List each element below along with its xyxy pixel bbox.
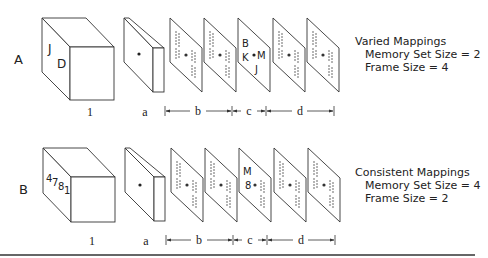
frame-c-target-b: M 8 [239,148,271,222]
stage-label-b: b [195,104,201,118]
svg-text:B: B [242,38,249,49]
memory-item: J [47,42,52,56]
stage-label-d: d [297,104,303,118]
frame-b1-b [171,148,203,222]
caption-consistent: Consistent Mappings Memory Set Size = 4 … [355,166,481,205]
memory-set-box-a: J D [42,18,114,100]
memory-set-box-b: 4 7 8 1 [43,148,115,222]
caption-title: Consistent Mappings [355,166,481,179]
row-label-b: B [19,182,28,197]
caption-memory-set-size: Memory Set Size = 4 [355,179,481,192]
memory-item: 1 [64,185,70,196]
frame-b2-b [205,148,237,222]
fixation-card-b [125,148,165,221]
timing-dimension-b: b c d [166,233,335,247]
stage-label-fixation: a [142,105,148,119]
caption-title: Varied Mappings [355,35,481,48]
caption-memory-set-size: Memory Set Size = 2 [355,48,481,61]
frame-d1-b [274,148,306,222]
frame-d1-a [273,18,305,92]
stage-label-c: c [247,233,252,247]
timing-dimension-a: b c d [165,104,334,118]
frame-d2-b [308,148,340,222]
frame-b1-a [170,18,202,92]
row-label-a: A [14,52,23,67]
frame-d2-a [307,18,339,92]
caption-frame-size: Frame Size = 4 [355,61,481,74]
stage-label-memory: 1 [89,234,95,248]
frame-b2-a [204,18,236,92]
svg-text:M: M [257,50,266,61]
fixation-card-a [124,18,164,92]
row-b: B 4 7 8 1 M 8 [19,148,340,248]
svg-text:8: 8 [245,180,251,191]
stage-label-c: c [246,104,251,118]
row-a: A J D B K M J [14,18,339,119]
stage-label-fixation: a [143,234,149,248]
svg-text:J: J [254,64,258,75]
stage-label-memory: 1 [87,105,93,119]
stage-label-b: b [196,233,202,247]
frame-c-target-a: B K M J [238,18,270,92]
stage-label-d: d [298,233,304,247]
memory-item: D [57,57,66,71]
svg-text:M: M [243,166,252,177]
caption-frame-size: Frame Size = 2 [355,192,481,205]
svg-text:K: K [242,52,249,63]
caption-varied: Varied Mappings Memory Set Size = 2 Fram… [355,35,481,74]
